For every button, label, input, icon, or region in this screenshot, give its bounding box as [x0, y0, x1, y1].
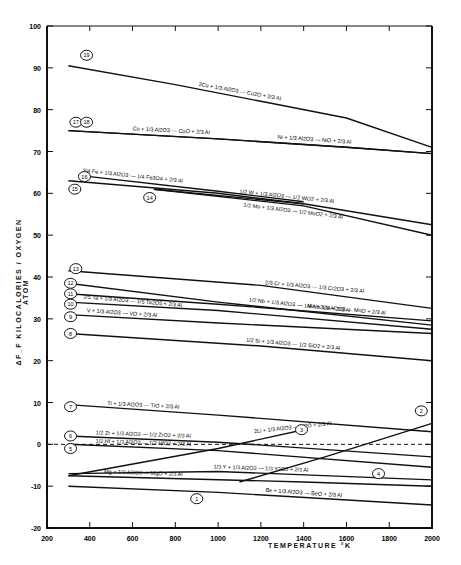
curve-number: 4 — [377, 471, 380, 477]
y-tick-label: 20 — [33, 358, 41, 365]
x-tick-label: 1400 — [296, 535, 312, 542]
x-tick-label: 2000 — [424, 535, 440, 542]
curve-number: 18 — [84, 119, 90, 125]
curve-number: 10 — [67, 301, 73, 307]
curve-number: 7 — [69, 404, 72, 410]
y-tick-label: 80 — [33, 107, 41, 114]
x-tick-label: 1200 — [253, 535, 269, 542]
x-tick-label: 400 — [84, 535, 96, 542]
series-line — [90, 177, 304, 202]
curve-number: 13 — [73, 266, 79, 272]
y-axis-title: ΔF_F KILOCALORIES / OXYGEN ATOM — [15, 212, 29, 372]
curve-number: 3 — [300, 427, 303, 433]
y-tick-label: 10 — [33, 400, 41, 407]
series-line — [68, 131, 432, 154]
y-tick-label: 100 — [29, 23, 41, 30]
series-line — [68, 283, 432, 325]
curve-number: 14 — [147, 195, 153, 201]
curve-number: 19 — [84, 52, 90, 58]
chart-svg: -20-100102030405060708090100200400600800… — [0, 0, 461, 565]
y-tick-label: -10 — [31, 483, 41, 490]
x-tick-label: 1800 — [381, 535, 397, 542]
y-tick-label: 60 — [33, 190, 41, 197]
reaction-label: Mg + 1/3 Al2O3 — MgO + 2/3 Al — [104, 468, 183, 477]
curve-number: 8 — [69, 331, 72, 337]
y-tick-label: 0 — [37, 441, 41, 448]
curve-number: 1 — [195, 496, 198, 502]
curve-number: 11 — [68, 291, 74, 297]
y-tick-label: 90 — [33, 65, 41, 72]
curve-number: 17 — [73, 119, 79, 125]
x-tick-label: 1600 — [339, 535, 355, 542]
series-line — [68, 66, 432, 148]
y-tick-label: 30 — [33, 316, 41, 323]
y-tick-label: 50 — [33, 232, 41, 239]
x-tick-label: 200 — [41, 535, 53, 542]
curve-number: 2 — [420, 408, 423, 414]
curve-number: 9 — [69, 314, 72, 320]
reaction-label: 2/3 Cr + 1/3 Al2O3 — 1/3 Cr2O3 + 2/3 Al — [265, 279, 365, 294]
y-tick-label: -20 — [31, 525, 41, 532]
x-tick-label: 1000 — [210, 535, 226, 542]
series-line — [68, 486, 432, 505]
y-tick-label: 40 — [33, 274, 41, 281]
x-axis-title: TEMPERATURE °K — [268, 542, 352, 549]
series-line — [68, 405, 432, 432]
reaction-label: Co + 1/3 Al2O3 — CoO + 2/3 Al — [132, 125, 210, 135]
curve-number: 5 — [69, 446, 72, 452]
curve-number: 6 — [69, 433, 72, 439]
x-tick-label: 600 — [127, 535, 139, 542]
x-tick-label: 800 — [169, 535, 181, 542]
y-tick-label: 70 — [33, 149, 41, 156]
curve-number: 12 — [67, 280, 73, 286]
curve-number: 15 — [72, 186, 78, 192]
curve-number: 16 — [81, 174, 87, 180]
